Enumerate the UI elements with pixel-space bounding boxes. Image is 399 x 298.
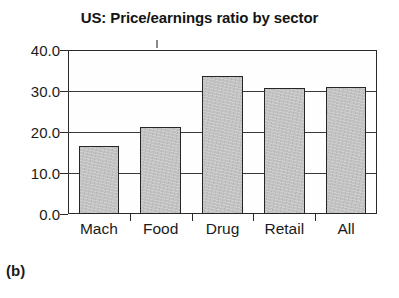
- bar-mach: [79, 146, 120, 214]
- chart-title: US: Price/earnings ratio by sector: [0, 9, 399, 26]
- bar-slot: [192, 50, 254, 214]
- x-axis-label-food: Food: [130, 220, 192, 238]
- plot-area: [68, 50, 377, 214]
- figure-panel: US: Price/earnings ratio by sector 0.010…: [0, 0, 399, 298]
- figure-caption: (b): [6, 262, 25, 279]
- bar-slot: [315, 50, 377, 214]
- y-axis-tick-mark: [60, 50, 68, 51]
- y-axis-tick-label: 10.0: [2, 165, 60, 182]
- y-axis-tick-label: 40.0: [2, 42, 60, 59]
- bar-retail: [264, 88, 305, 214]
- bar-slot: [253, 50, 315, 214]
- scan-artifact-tick: [156, 40, 158, 48]
- x-axis-label-drug: Drug: [192, 220, 254, 238]
- y-axis-tick-mark: [60, 214, 68, 215]
- y-axis-tick-mark: [60, 91, 68, 92]
- y-axis-tick-label: 0.0: [2, 206, 60, 223]
- bar-slot: [68, 50, 130, 214]
- x-axis-label-mach: Mach: [68, 220, 130, 238]
- bar-food: [140, 127, 181, 214]
- y-axis-tick-label: 30.0: [2, 83, 60, 100]
- y-axis-tick-label: 20.0: [2, 124, 60, 141]
- x-axis-labels: MachFoodDrugRetailAll: [68, 220, 377, 238]
- bar-all: [326, 87, 367, 214]
- bar-drug: [202, 76, 243, 214]
- x-axis-label-retail: Retail: [253, 220, 315, 238]
- y-axis-tick-mark: [60, 132, 68, 133]
- bar-slot: [130, 50, 192, 214]
- bar-series: [68, 50, 377, 214]
- x-axis-label-all: All: [315, 220, 377, 238]
- y-axis-tick-mark: [60, 173, 68, 174]
